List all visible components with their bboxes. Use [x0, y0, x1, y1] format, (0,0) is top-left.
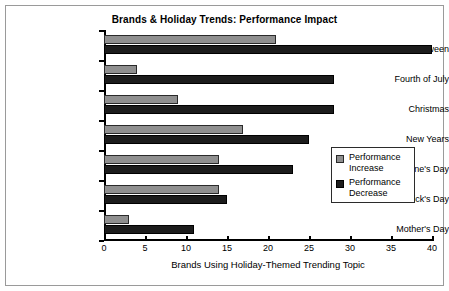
bar-decrease-halloween: [104, 45, 432, 54]
bar-group-new-years: [104, 120, 449, 150]
bar-increase-new-years: [104, 125, 243, 134]
x-axis-tick: [104, 236, 106, 241]
x-axis-tick-label: 15: [212, 243, 242, 253]
legend-item-performance-increase: PerformanceIncrease: [336, 152, 410, 173]
x-axis-tick-label: 0: [89, 243, 119, 253]
bar-increase-st-patricks-day: [104, 185, 219, 194]
legend-label-increase: PerformanceIncrease: [349, 152, 401, 173]
x-axis-tick: [227, 236, 229, 241]
x-axis-tick: [186, 236, 188, 241]
x-axis-title: Brands Using Holiday-Themed Trending Top…: [104, 259, 432, 270]
bar-decrease-st-patricks-day: [104, 195, 227, 204]
bar-decrease-valentines-day: [104, 165, 293, 174]
bar-decrease-christmas: [104, 105, 334, 114]
legend-swatch-increase-icon: [336, 155, 344, 163]
bar-increase-christmas: [104, 95, 178, 104]
legend-item-performance-decrease: PerformanceDecrease: [336, 177, 410, 198]
legend-swatch-decrease-icon: [336, 180, 344, 188]
bar-group-fourth-of-july: [104, 60, 449, 90]
x-axis-tick: [432, 236, 434, 241]
x-axis-tick: [309, 236, 311, 241]
x-axis-tick-label: 20: [253, 243, 283, 253]
bar-increase-mothers-day: [104, 215, 129, 224]
bar-increase-fourth-of-july: [104, 65, 137, 74]
chart-legend: PerformanceIncrease PerformanceDecrease: [331, 147, 415, 203]
x-axis-tick-label: 10: [171, 243, 201, 253]
x-axis-tick-label: 30: [335, 243, 365, 253]
bar-increase-valentines-day: [104, 155, 219, 164]
bar-group-mothers-day: [104, 210, 449, 240]
x-axis-tick: [268, 236, 270, 241]
bar-increase-halloween: [104, 35, 276, 44]
x-axis-tick: [391, 236, 393, 241]
bar-chart: Brands & Holiday Trends: Performance Imp…: [0, 0, 449, 291]
bar-group-christmas: [104, 90, 449, 120]
legend-label-decrease: PerformanceDecrease: [349, 177, 401, 198]
bar-group-halloween: [104, 30, 449, 60]
bar-decrease-new-years: [104, 135, 309, 144]
bar-decrease-mothers-day: [104, 225, 194, 234]
chart-title: Brands & Holiday Trends: Performance Imp…: [0, 14, 449, 25]
x-axis-tick: [145, 236, 147, 241]
x-axis-tick-label: 5: [130, 243, 160, 253]
bars-layer: [104, 30, 449, 241]
x-axis-tick-label: 40: [417, 243, 447, 253]
x-axis-tick-label: 35: [376, 243, 406, 253]
bar-decrease-fourth-of-july: [104, 75, 334, 84]
x-axis-tick-label: 25: [294, 243, 324, 253]
x-axis-tick: [350, 236, 352, 241]
